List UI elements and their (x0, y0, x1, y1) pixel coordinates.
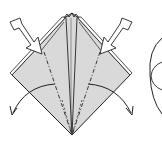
next-step-circle-partial (150, 38, 162, 114)
left-push-arrow-icon (10, 18, 42, 54)
right-push-arrow-icon (100, 18, 132, 54)
